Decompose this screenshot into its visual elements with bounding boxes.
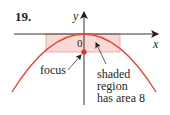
y-axis-label: y	[73, 10, 78, 22]
shaded-region	[46, 34, 120, 52]
focus-pointer-arrow	[68, 55, 81, 70]
focus-label: focus	[40, 64, 66, 76]
shaded-region-label: shaded region has area 8	[97, 68, 145, 104]
origin-label: 0	[77, 38, 83, 49]
x-axis-label: x	[153, 38, 158, 50]
focus-point	[81, 49, 86, 54]
region-label-line-3: has area 8	[97, 92, 145, 104]
parabola-figure: 19. y x 0 focus shaded region has area 8	[0, 0, 170, 115]
problem-number: 19.	[15, 10, 31, 23]
